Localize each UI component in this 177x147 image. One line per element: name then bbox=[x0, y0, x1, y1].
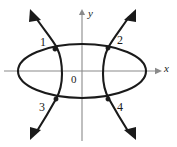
point-label-1: 1 bbox=[40, 36, 46, 48]
point-label-2: 2 bbox=[117, 34, 123, 46]
intersection-point-2 bbox=[106, 46, 110, 50]
axes-group bbox=[4, 9, 162, 141]
intersection-point-1 bbox=[53, 47, 57, 51]
right-parabolic-curve bbox=[103, 17, 129, 131]
intersection-point-4 bbox=[106, 97, 110, 101]
right-curve-group bbox=[103, 9, 136, 140]
left-curve-group bbox=[29, 9, 62, 140]
x-axis-label: x bbox=[164, 63, 169, 74]
intersection-point-3 bbox=[54, 97, 58, 101]
right-curve-top-arrowhead bbox=[124, 9, 136, 22]
point-label-4: 4 bbox=[117, 101, 123, 113]
point-label-3: 3 bbox=[39, 101, 45, 113]
math-figure: 1 2 3 4 0 x y bbox=[0, 0, 177, 147]
figure-canvas bbox=[0, 0, 177, 147]
origin-label: 0 bbox=[71, 74, 77, 85]
y-axis-arrowhead bbox=[79, 9, 85, 15]
left-curve-top-arrowhead bbox=[29, 9, 41, 22]
y-axis-label: y bbox=[88, 8, 93, 19]
x-axis-arrowhead bbox=[155, 68, 162, 74]
